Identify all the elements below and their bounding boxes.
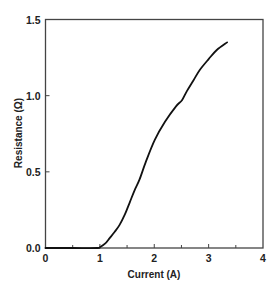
axis-tick-labels: 012340.00.51.01.5 [26,14,266,265]
x-tick-label: 4 [260,252,266,264]
y-tick-label: 0.5 [26,166,41,178]
x-tick-label: 1 [97,252,103,264]
resistance-curve [46,42,228,248]
plot-area: 012340.00.51.01.5 [26,14,266,265]
y-tick-label: 0.0 [26,242,41,254]
x-axis-title: Current (A) [128,269,181,280]
y-axis-title: Resistance (Ω) [13,98,24,168]
axis-ticks [46,96,236,248]
y-tick-label: 1.5 [26,14,41,26]
resistance-vs-current-chart: 012340.00.51.01.5 Current (A) Resistance… [0,0,279,291]
x-tick-label: 2 [151,252,157,264]
y-tick-label: 1.0 [26,90,41,102]
plot-frame [46,20,264,249]
x-tick-label: 0 [43,252,49,264]
x-tick-label: 3 [206,252,212,264]
